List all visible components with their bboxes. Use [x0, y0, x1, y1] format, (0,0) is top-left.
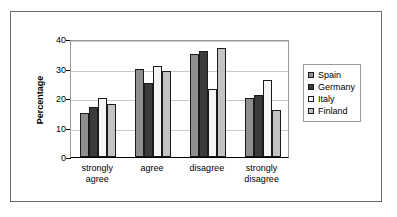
legend-item-label: Germany	[318, 82, 355, 92]
legend-item-label: Spain	[318, 70, 341, 80]
x-axis-category-label-line: strongly	[246, 163, 278, 173]
y-axis-tick-mark	[66, 129, 70, 130]
bar-group	[135, 41, 171, 157]
y-axis-tick-label: 10	[56, 125, 66, 134]
bar	[153, 66, 162, 157]
bar	[190, 54, 199, 157]
legend-swatch-icon	[308, 84, 314, 90]
x-axis-category-label: disagree	[180, 163, 235, 174]
bar-group	[80, 41, 116, 157]
y-axis-tick-label: 20	[56, 95, 66, 104]
bar-group	[190, 41, 226, 157]
legend-item-label: Finland	[318, 106, 348, 116]
legend-swatch-icon	[308, 108, 314, 114]
legend-item: Italy	[308, 93, 355, 105]
bar	[263, 80, 272, 157]
bar	[245, 98, 254, 157]
bar	[217, 48, 226, 157]
y-axis-tick-mark	[66, 99, 70, 100]
plot-area	[70, 40, 289, 158]
x-axis-category-label: stronglydisagree	[234, 163, 289, 185]
bar	[254, 95, 263, 157]
bar	[98, 98, 107, 157]
bar	[89, 107, 98, 157]
x-axis-category-label: stronglyagree	[70, 163, 125, 185]
x-axis-category-label: agree	[125, 163, 180, 174]
bar	[107, 104, 116, 157]
x-axis-category-label-line: strongly	[82, 163, 114, 173]
x-axis-category-label-line: disagree	[234, 174, 289, 185]
y-axis-tick-mark	[66, 158, 70, 159]
x-axis-category-label-line: agree	[70, 174, 125, 185]
bar	[199, 51, 208, 157]
bar	[144, 83, 153, 157]
bar	[162, 71, 171, 157]
legend-item: Spain	[308, 69, 355, 81]
bar	[272, 110, 281, 157]
legend-item-label: Italy	[318, 94, 335, 104]
legend: SpainGermanyItalyFinland	[303, 64, 361, 122]
y-axis-tick-label: 30	[56, 66, 66, 75]
y-axis-tick-label: 40	[56, 36, 66, 45]
legend-item: Germany	[308, 81, 355, 93]
bar	[135, 69, 144, 158]
y-axis-tick-mark	[66, 70, 70, 71]
y-axis-tick-mark	[66, 40, 70, 41]
bar	[208, 89, 217, 157]
legend-swatch-icon	[308, 96, 314, 102]
legend-item: Finland	[308, 105, 355, 117]
bar-group	[245, 41, 281, 157]
y-axis-tick-labels: 010203040	[40, 0, 66, 217]
chart-figure: Percentage 010203040 stronglyagreeagreed…	[0, 0, 397, 217]
legend-swatch-icon	[308, 72, 314, 78]
x-axis-category-label-line: disagree	[190, 163, 225, 173]
x-axis-category-labels: stronglyagreeagreedisagreestronglydisagr…	[70, 163, 289, 203]
bar	[80, 113, 89, 157]
x-axis-category-label-line: agree	[141, 163, 164, 173]
